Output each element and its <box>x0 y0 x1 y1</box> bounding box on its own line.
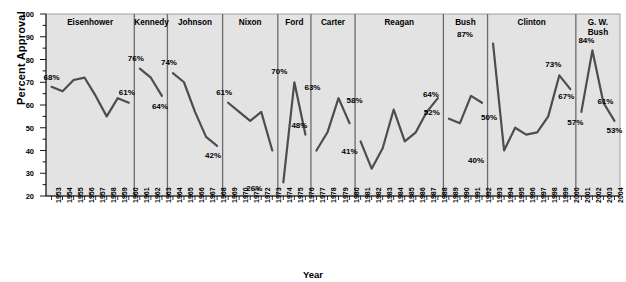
x-tick-1960: 1960 <box>132 187 139 203</box>
panel-title-bush: Bush <box>443 18 487 28</box>
annotation-1968: 42% <box>205 151 221 160</box>
x-tick-1969: 1969 <box>231 187 238 203</box>
annotation-2000: 67% <box>558 92 574 101</box>
x-tick-1979: 1979 <box>342 187 349 203</box>
x-tick-1962: 1962 <box>154 187 161 203</box>
annotation-1999: 73% <box>545 60 561 69</box>
annotation-1977: 63% <box>304 83 320 92</box>
panel-title-ford: Ford <box>278 18 311 28</box>
presidential-approval-chart: Percent Approval Year 203040506070809010… <box>0 0 626 282</box>
x-tick-1985: 1985 <box>408 187 415 203</box>
x-tick-1986: 1986 <box>419 187 426 203</box>
x-tick-1965: 1965 <box>187 187 194 203</box>
x-tick-1988: 1988 <box>441 187 448 203</box>
panel-title-eisenhower: Eisenhower <box>46 18 134 28</box>
x-tick-1987: 1987 <box>430 187 437 203</box>
y-tick-60: 60 <box>10 101 34 110</box>
chart-canvas <box>0 0 626 282</box>
annotation-1953: 68% <box>44 73 60 82</box>
annotation-1963: 64% <box>152 102 168 111</box>
x-tick-1961: 1961 <box>143 187 150 203</box>
x-tick-1981: 1981 <box>364 187 371 203</box>
x-tick-1958: 1958 <box>110 187 117 203</box>
annotation-1976: 48% <box>291 121 307 130</box>
annotation-1980: 41% <box>342 147 358 156</box>
x-tick-1978: 1978 <box>330 187 337 203</box>
annotation-1960: 61% <box>119 88 135 97</box>
annotation-1989: 64% <box>423 90 439 99</box>
x-tick-1995: 1995 <box>518 187 525 203</box>
x-tick-1968: 1968 <box>220 187 227 203</box>
annotation-1961: 76% <box>128 54 144 63</box>
x-tick-2000: 2000 <box>573 187 580 203</box>
x-tick-1982: 1982 <box>375 187 382 203</box>
x-tick-1954: 1954 <box>66 187 73 203</box>
annotation-1993: 50% <box>481 113 497 122</box>
x-tick-1963: 1963 <box>165 187 172 203</box>
x-tick-1984: 1984 <box>397 187 404 203</box>
x-tick-2003: 2003 <box>606 187 613 203</box>
x-tick-1996: 1996 <box>529 187 536 203</box>
y-tick-40: 40 <box>10 147 34 156</box>
y-tick-70: 70 <box>10 78 34 87</box>
panel-title-johnson: Johnson <box>167 18 222 28</box>
y-tick-100: 100 <box>10 10 34 19</box>
x-tick-1953: 1953 <box>55 187 62 203</box>
x-tick-1992: 1992 <box>485 187 492 203</box>
x-tick-1964: 1964 <box>176 187 183 203</box>
annotation-1969: 61% <box>216 88 232 97</box>
x-tick-1998: 1998 <box>551 187 558 203</box>
y-tick-50: 50 <box>10 124 34 133</box>
annotation-2003: 61% <box>597 97 613 106</box>
x-tick-1977: 1977 <box>319 187 326 203</box>
x-tick-1993: 1993 <box>496 187 503 203</box>
panel-title-carter: Carter <box>311 18 355 28</box>
x-tick-1972: 1972 <box>264 187 271 203</box>
panel-title-nixon: Nixon <box>223 18 278 28</box>
x-tick-1989: 1989 <box>452 187 459 203</box>
x-tick-1999: 1999 <box>562 187 569 203</box>
x-tick-1956: 1956 <box>88 187 95 203</box>
x-tick-1957: 1957 <box>99 187 106 203</box>
x-tick-1976: 1976 <box>308 187 315 203</box>
x-tick-2002: 2002 <box>595 187 602 203</box>
x-tick-1967: 1967 <box>209 187 216 203</box>
panel-title-g-w-bush: G. W. Bush <box>576 18 620 37</box>
annotation-2004: 53% <box>606 126 622 135</box>
annotation-1964: 74% <box>161 58 177 67</box>
y-tick-90: 90 <box>10 33 34 42</box>
panel-title-reagan: Reagan <box>355 18 443 28</box>
y-tick-30: 30 <box>10 169 34 178</box>
x-tick-2004: 2004 <box>617 187 624 203</box>
annotation-1973: 26% <box>246 184 262 193</box>
annotation-1981: 58% <box>347 96 363 105</box>
x-tick-1997: 1997 <box>540 187 547 203</box>
annotation-1974: 70% <box>271 67 287 76</box>
annotation-1988: 52% <box>424 108 440 117</box>
annotation-1991: 87% <box>457 30 473 39</box>
x-tick-1991: 1991 <box>474 187 481 203</box>
annotation-1992: 40% <box>468 156 484 165</box>
y-tick-80: 80 <box>10 56 34 65</box>
panel-title-clinton: Clinton <box>488 18 576 28</box>
x-tick-1959: 1959 <box>121 187 128 203</box>
x-tick-1955: 1955 <box>77 187 84 203</box>
x-tick-1975: 1975 <box>297 187 304 203</box>
x-tick-1974: 1974 <box>286 187 293 203</box>
panel-title-kennedy: Kennedy <box>134 18 167 28</box>
annotation-2002: 84% <box>578 36 594 45</box>
x-tick-2001: 2001 <box>584 187 591 203</box>
y-tick-20: 20 <box>10 192 34 201</box>
annotation-2001: 57% <box>567 118 583 127</box>
x-tick-1980: 1980 <box>353 187 360 203</box>
x-tick-1966: 1966 <box>198 187 205 203</box>
x-tick-1973: 1973 <box>275 187 282 203</box>
x-tick-1983: 1983 <box>386 187 393 203</box>
x-tick-1990: 1990 <box>463 187 470 203</box>
x-tick-1994: 1994 <box>507 187 514 203</box>
